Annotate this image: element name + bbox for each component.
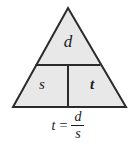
triangle-cell-label-distance: d [52, 33, 84, 50]
formula-fraction-numerator: d [71, 110, 84, 125]
formula-equals-sign: = [58, 119, 68, 133]
formula-fraction: d s [71, 110, 84, 141]
triangle-outline [13, 8, 126, 107]
formula-expression: t = d s [0, 110, 136, 141]
formula-left-hand-side: t [52, 119, 56, 133]
formula-fraction-denominator: s [72, 126, 83, 141]
triangle-cell-label-speed: s [27, 77, 57, 92]
formula-triangle-figure: d s t t = d s [0, 0, 136, 144]
triangle-cell-label-time: t [77, 77, 107, 92]
